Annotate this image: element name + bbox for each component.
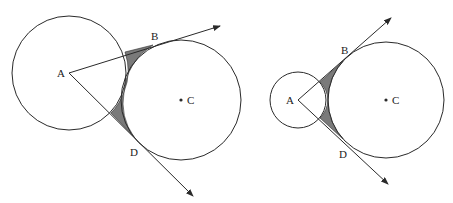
label-b-right: B	[341, 44, 348, 56]
shaded-region-upper-left	[124, 45, 153, 92]
label-c-left: C	[187, 94, 194, 106]
right-figure: A B C D	[270, 18, 444, 184]
label-c-right: C	[392, 94, 399, 106]
label-d-right: D	[339, 148, 347, 160]
ray-ad-right	[298, 100, 388, 184]
label-d-left: D	[130, 146, 138, 158]
ray-ab-right	[298, 18, 391, 100]
ray-ad-left	[69, 73, 193, 196]
label-b-left: B	[151, 30, 158, 42]
tangent-circles-diagram: A B C D A B C D	[0, 0, 453, 203]
center-point-c-right	[384, 98, 387, 101]
center-point-c-left	[179, 98, 182, 101]
left-figure: A B C D	[12, 16, 241, 196]
label-a-right: A	[286, 94, 294, 106]
label-a-left: A	[57, 67, 65, 79]
ray-ab-left	[69, 26, 220, 73]
